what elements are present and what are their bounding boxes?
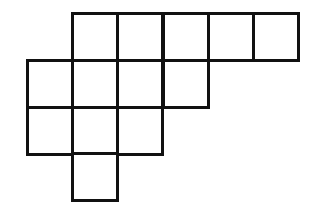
grid-cell	[116, 12, 164, 62]
grid-diagram	[0, 0, 316, 214]
grid-cell	[162, 59, 210, 109]
grid-cell	[71, 12, 119, 62]
grid-cell	[207, 12, 255, 62]
grid-cell	[71, 152, 119, 202]
grid-cell	[26, 59, 74, 109]
grid-cell	[26, 106, 74, 156]
grid-cell	[116, 59, 164, 109]
grid-cell	[71, 59, 119, 109]
grid-cell	[116, 106, 164, 156]
grid-cell	[71, 106, 119, 156]
grid-cell	[162, 12, 210, 62]
grid-cell	[252, 12, 300, 62]
